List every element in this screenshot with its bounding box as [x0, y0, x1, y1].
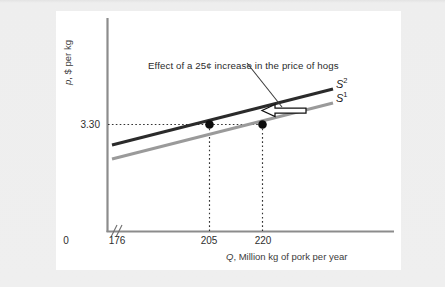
x-tick-205: 205 — [192, 235, 226, 246]
y-axis-label: p, $ per kg — [62, 18, 73, 108]
curve-label-s1: S1 — [336, 90, 348, 104]
y-tick-price-3-30: 3.30 — [54, 119, 100, 130]
curve-label-s1-superscript: 1 — [343, 90, 347, 99]
x-axis-label-rest: , Million kg of pork per year — [233, 251, 347, 262]
y-axis-label-rest: , $ per kg — [62, 40, 73, 80]
supply-shift-chart — [56, 11, 401, 270]
x-tick-220: 220 — [246, 235, 280, 246]
curve-label-s2: S2 — [336, 76, 348, 90]
y-axis-label-variable: p — [62, 80, 73, 85]
point-s2-205 — [205, 120, 214, 129]
x-tick-origin: 0 — [54, 235, 78, 246]
x-axis-label: Q, Million kg of pork per year — [226, 251, 347, 262]
figure-panel: p, $ per kg Q, Million kg of pork per ye… — [56, 11, 401, 270]
annotation-caption: Effect of a 25¢ increase in the price of… — [148, 60, 339, 71]
point-s1-220 — [258, 120, 267, 129]
x-tick-176: 176 — [100, 235, 134, 246]
supply-curve-s2 — [112, 89, 333, 145]
curve-label-s2-superscript: 2 — [343, 76, 347, 85]
